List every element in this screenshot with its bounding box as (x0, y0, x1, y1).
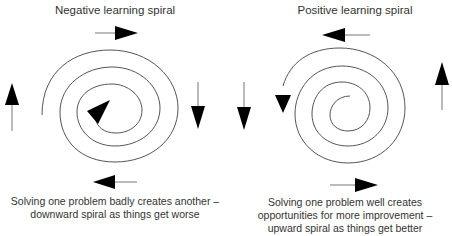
positive-right-arrow-icon (435, 62, 449, 110)
positive-left-arrow-icon (237, 82, 251, 130)
negative-left-arrow-icon (5, 83, 19, 131)
positive-spiral-caption: Solving one problem well creates opportu… (245, 196, 445, 235)
negative-bottom-arrow-icon (93, 175, 137, 189)
negative-inner-arrowhead-icon (87, 100, 110, 124)
negative-top-arrow-icon (95, 26, 138, 40)
positive-top-arrow-icon (322, 28, 370, 42)
negative-right-arrow-icon (191, 82, 205, 129)
positive-spiral (283, 48, 405, 163)
negative-spiral-caption: Solving one problem badly creates anothe… (10, 195, 220, 221)
positive-bottom-arrow-icon (330, 178, 378, 192)
negative-spiral (42, 50, 178, 162)
positive-outer-arrowhead-icon (275, 95, 291, 113)
